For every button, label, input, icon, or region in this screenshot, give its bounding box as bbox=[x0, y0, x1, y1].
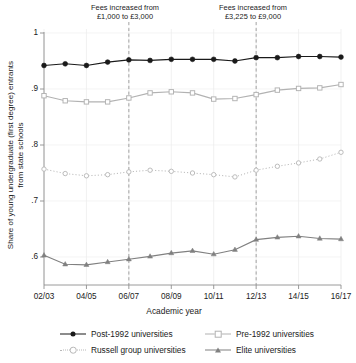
triangle-filled-icon bbox=[215, 348, 221, 353]
data-point bbox=[275, 164, 279, 168]
legend-item-elite[interactable]: Elite universities bbox=[205, 345, 296, 355]
circle-filled-icon bbox=[71, 332, 76, 337]
data-point bbox=[275, 88, 279, 92]
data-point bbox=[233, 175, 237, 179]
data-point bbox=[127, 170, 131, 174]
data-point bbox=[190, 91, 194, 95]
data-point bbox=[318, 157, 322, 161]
data-point bbox=[148, 168, 152, 172]
x-tick-label: 10/11 bbox=[194, 292, 234, 301]
x-tick-label: 02/03 bbox=[24, 292, 64, 301]
series-1 bbox=[42, 54, 344, 68]
data-point bbox=[63, 99, 67, 103]
data-point bbox=[105, 60, 110, 65]
series-3 bbox=[42, 150, 343, 179]
data-point bbox=[63, 171, 67, 175]
data-point bbox=[233, 59, 238, 64]
data-point bbox=[148, 91, 152, 95]
x-tick-label: 04/05 bbox=[66, 292, 106, 301]
data-point bbox=[42, 94, 46, 98]
data-point bbox=[190, 248, 195, 252]
legend-label-elite: Elite universities bbox=[236, 345, 296, 355]
data-point bbox=[318, 86, 322, 90]
data-point bbox=[148, 58, 153, 63]
square-open-icon bbox=[215, 331, 222, 338]
data-point bbox=[169, 90, 173, 94]
legend-key-elite bbox=[205, 345, 231, 355]
legend-key-russell-group bbox=[60, 345, 86, 355]
x-tick-label: 08/09 bbox=[151, 292, 191, 301]
legend: Post-1992 universities Pre-1992 universi… bbox=[0, 329, 348, 363]
data-point bbox=[254, 92, 258, 96]
data-point bbox=[254, 55, 259, 60]
data-point bbox=[190, 57, 195, 62]
y-tick-label: .7 bbox=[16, 196, 38, 205]
y-tick-label: .6 bbox=[16, 252, 38, 261]
data-point bbox=[127, 96, 131, 100]
data-point bbox=[42, 253, 47, 257]
data-point bbox=[84, 63, 89, 68]
data-point bbox=[105, 100, 109, 104]
legend-item-pre-1992[interactable]: Pre-1992 universities bbox=[205, 329, 314, 339]
data-point bbox=[126, 57, 131, 62]
series-4 bbox=[42, 234, 344, 267]
data-point bbox=[254, 168, 258, 172]
data-point bbox=[296, 54, 301, 59]
data-point bbox=[296, 234, 301, 238]
data-point bbox=[233, 96, 237, 100]
x-tick-label: 06/07 bbox=[109, 292, 149, 301]
y-tick-label: 1 bbox=[16, 28, 38, 37]
data-point bbox=[317, 54, 322, 59]
data-point bbox=[339, 82, 343, 86]
data-point bbox=[84, 174, 88, 178]
legend-key-pre-1992 bbox=[205, 329, 231, 339]
data-point bbox=[190, 171, 194, 175]
data-point bbox=[275, 55, 280, 60]
data-point bbox=[212, 172, 216, 176]
series-2 bbox=[42, 82, 343, 104]
x-tick-label: 16/17 bbox=[321, 292, 356, 301]
y-tick-label: .8 bbox=[16, 140, 38, 149]
data-point bbox=[42, 167, 46, 171]
legend-label-post-1992: Post-1992 universities bbox=[91, 329, 173, 339]
data-point bbox=[339, 150, 343, 154]
data-point bbox=[296, 86, 300, 90]
data-point bbox=[296, 161, 300, 165]
data-point bbox=[169, 57, 174, 62]
data-point bbox=[105, 172, 109, 176]
circle-open-icon bbox=[70, 347, 77, 354]
x-tick-label: 14/15 bbox=[279, 292, 319, 301]
legend-label-russell-group: Russell group universities bbox=[91, 345, 186, 355]
x-axis-title: Academic year bbox=[0, 306, 348, 316]
legend-item-post-1992[interactable]: Post-1992 universities bbox=[60, 329, 173, 339]
data-point bbox=[339, 55, 344, 60]
data-point bbox=[42, 63, 47, 68]
y-tick-label: .9 bbox=[16, 84, 38, 93]
legend-label-pre-1992: Pre-1992 universities bbox=[236, 329, 314, 339]
data-point bbox=[84, 100, 88, 104]
data-point bbox=[212, 97, 216, 101]
data-point bbox=[211, 57, 216, 62]
legend-key-post-1992 bbox=[60, 329, 86, 339]
data-point bbox=[169, 169, 173, 173]
legend-item-russell-group[interactable]: Russell group universities bbox=[60, 345, 186, 355]
x-tick-label: 12/13 bbox=[236, 292, 276, 301]
data-point bbox=[63, 61, 68, 66]
plot-area bbox=[0, 0, 348, 300]
